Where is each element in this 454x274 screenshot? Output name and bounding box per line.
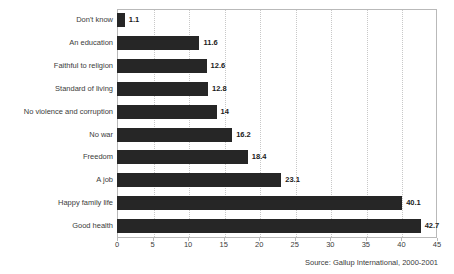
bar-value-label: 12.8 xyxy=(212,80,227,98)
category-label: No war xyxy=(0,124,113,147)
x-tick-label: 35 xyxy=(362,240,370,249)
bar-row: 1.1 xyxy=(117,9,437,32)
bar xyxy=(117,219,421,233)
bar-value-label: 14 xyxy=(221,103,229,121)
source-note: Source: Gallup International, 2000-2001 xyxy=(0,258,438,267)
value-axis-labels: 051015202530354045 xyxy=(117,240,437,252)
category-label: An education xyxy=(0,32,113,55)
bar-row: 12.6 xyxy=(117,55,437,78)
bar xyxy=(117,13,125,27)
bar-value-label: 40.1 xyxy=(406,194,421,212)
category-label: A job xyxy=(0,169,113,192)
x-tick-label: 45 xyxy=(433,240,441,249)
bar-value-label: 11.6 xyxy=(203,34,217,52)
bar-value-label: 1.1 xyxy=(129,11,139,29)
category-label: No violence and corruption xyxy=(0,101,113,124)
category-label: Standard of living xyxy=(0,78,113,101)
bar-value-label: 42.7 xyxy=(425,217,440,235)
bar xyxy=(117,128,232,142)
bar-value-label: 23.1 xyxy=(285,171,300,189)
bar-row: 40.1 xyxy=(117,192,437,215)
bar-row: 11.6 xyxy=(117,32,437,55)
x-tick-label: 40 xyxy=(397,240,405,249)
category-label: Happy family life xyxy=(0,192,113,215)
bar-value-label: 16.2 xyxy=(236,126,251,144)
bar xyxy=(117,59,207,73)
bar-row: 18.4 xyxy=(117,146,437,169)
category-label: Don't know xyxy=(0,9,113,32)
bar xyxy=(117,105,217,119)
bar-series: 1.111.612.612.81416.218.423.140.142.7 xyxy=(117,9,437,238)
bar xyxy=(117,196,402,210)
x-tick-label: 10 xyxy=(184,240,192,249)
bar-value-label: 18.4 xyxy=(252,148,267,166)
bar-row: 16.2 xyxy=(117,124,437,147)
bar xyxy=(117,82,208,96)
bar xyxy=(117,36,199,50)
x-tick-label: 30 xyxy=(326,240,334,249)
bar-row: 42.7 xyxy=(117,215,437,238)
bar-row: 23.1 xyxy=(117,169,437,192)
x-tick-label: 20 xyxy=(255,240,263,249)
bar-value-label: 12.6 xyxy=(211,57,226,75)
bar-row: 14 xyxy=(117,101,437,124)
bar-row: 12.8 xyxy=(117,78,437,101)
x-tick-label: 5 xyxy=(150,240,154,249)
x-tick-label: 0 xyxy=(115,240,119,249)
category-label: Faithful to religion xyxy=(0,55,113,78)
x-tick-label: 25 xyxy=(291,240,299,249)
category-axis-labels: Don't knowAn educationFaithful to religi… xyxy=(0,9,113,238)
bar-chart: Don't knowAn educationFaithful to religi… xyxy=(0,0,454,274)
category-label: Freedom xyxy=(0,146,113,169)
bar xyxy=(117,150,248,164)
bar xyxy=(117,173,281,187)
category-label: Good health xyxy=(0,215,113,238)
x-tick-label: 15 xyxy=(219,240,227,249)
